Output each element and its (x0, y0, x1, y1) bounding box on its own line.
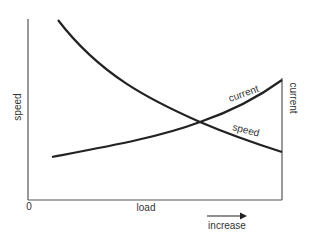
arrow-right-icon (240, 213, 247, 220)
increase-label: increase (208, 220, 246, 231)
y-axis-label-speed: speed (12, 93, 23, 120)
current-curve-label: current (227, 83, 260, 104)
y-axis-label-current: current (288, 82, 299, 113)
x-axis-label: load (137, 202, 156, 213)
origin-label: 0 (26, 201, 32, 212)
chart: current speed speed current 0 load incre… (0, 0, 309, 241)
